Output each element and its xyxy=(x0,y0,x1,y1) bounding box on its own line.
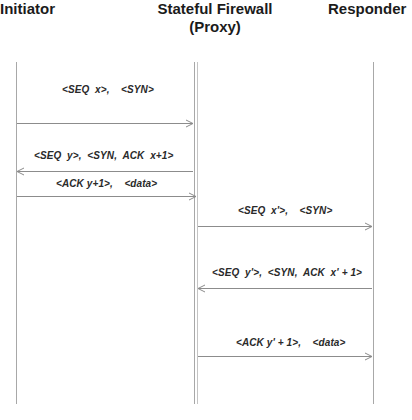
arrow-right-icon xyxy=(17,120,193,127)
arrow-right-icon xyxy=(198,353,372,360)
arrow-left-icon xyxy=(198,285,372,292)
message-arrows xyxy=(0,0,412,420)
arrow-right-icon xyxy=(17,193,196,200)
arrow-right-icon xyxy=(198,223,372,230)
arrow-left-icon xyxy=(17,168,193,175)
